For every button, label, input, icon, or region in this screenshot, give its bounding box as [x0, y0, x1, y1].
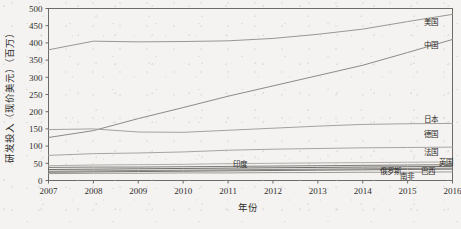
y-tick-label: 250 — [29, 90, 43, 100]
x-tick-label: 2011 — [219, 186, 237, 196]
y-tick-label: 0 — [38, 176, 43, 186]
y-tick-label: 150 — [29, 124, 43, 134]
series-label-美国: 美国 — [424, 17, 438, 27]
x-tick-label: 2012 — [264, 186, 282, 196]
series-label-德国: 德国 — [424, 129, 438, 139]
y-tick-label: 200 — [29, 107, 43, 117]
series-label-南非: 南非 — [400, 171, 415, 181]
y-axis-title: 研发投入（现价美元）（百万） — [4, 28, 15, 163]
series-label-日本: 日本 — [424, 114, 439, 124]
series-label-法国: 法国 — [424, 147, 438, 157]
y-tick-label: 350 — [29, 55, 43, 65]
y-tick-label: 300 — [29, 73, 43, 83]
y-tick-label: 500 — [29, 4, 43, 14]
x-tick-label: 2010 — [174, 186, 193, 196]
series-label-俄罗斯: 俄罗斯 — [380, 166, 402, 176]
chart-svg: 050100150200250300350400450500 200720082… — [0, 0, 461, 229]
x-tick-label: 2016 — [444, 186, 461, 196]
y-tick-label: 450 — [29, 21, 43, 31]
x-tick-label: 2015 — [399, 186, 418, 196]
y-tick-label: 400 — [29, 38, 43, 48]
series-label-英国: 英国 — [439, 157, 453, 167]
y-tick-label: 50 — [34, 159, 44, 169]
series-label-中国: 中国 — [424, 40, 438, 50]
x-tick-label: 2009 — [129, 186, 148, 196]
rd-expenditure-line-chart: 050100150200250300350400450500 200720082… — [0, 0, 461, 229]
series-label-印度: 印度 — [233, 159, 248, 169]
x-tick-label: 2014 — [354, 186, 373, 196]
x-tick-label: 2007 — [40, 186, 59, 196]
y-tick-label: 100 — [29, 141, 43, 151]
x-axis-title: 年份 — [238, 202, 258, 213]
x-tick-label: 2013 — [309, 186, 328, 196]
series-label-巴西: 巴西 — [421, 167, 436, 176]
x-tick-label: 2008 — [84, 186, 103, 196]
